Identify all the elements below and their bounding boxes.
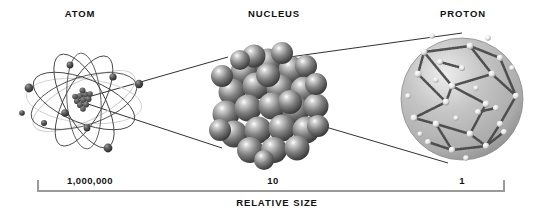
scale-tick-right <box>503 180 505 191</box>
atomic-scale-diagram: ATOM NUCLEUS PROTON <box>0 0 554 211</box>
connector-atom-to-nucleus <box>88 57 228 148</box>
proton-sphere <box>401 38 523 160</box>
atom-model <box>19 46 144 157</box>
scale-value-nucleus: 10 <box>267 175 278 186</box>
proton-model <box>401 33 523 161</box>
atom-nucleus-cluster <box>72 88 93 112</box>
scale-value-proton: 1 <box>459 175 465 186</box>
scale-caption: RELATIVE SIZE <box>236 197 318 208</box>
nucleus-model <box>209 42 329 170</box>
scale-bar <box>37 190 505 192</box>
scale-value-atom: 1,000,000 <box>67 175 113 186</box>
scale-tick-left <box>37 180 39 191</box>
